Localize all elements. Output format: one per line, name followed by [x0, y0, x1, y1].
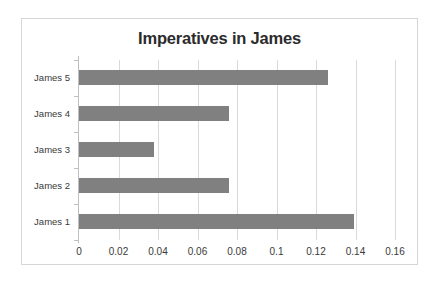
bar [79, 70, 328, 85]
chart-title: Imperatives in James [22, 29, 417, 48]
bar [79, 178, 229, 193]
bar [79, 106, 229, 121]
bar-row: James 4 [79, 96, 395, 132]
category-label: James 3 [34, 142, 70, 157]
bar [79, 214, 354, 229]
x-tick-label: 0.12 [306, 246, 325, 257]
bar [79, 142, 154, 157]
x-tick-label: 0.06 [188, 246, 207, 257]
chart-container: Imperatives in James James 5James 4James… [21, 18, 418, 265]
bar-row: James 1 [79, 204, 395, 240]
x-tick-label: 0.04 [148, 246, 167, 257]
gridline [395, 60, 396, 240]
x-tick-label: 0.14 [346, 246, 365, 257]
plot-area: James 5James 4James 3James 2James 1 00.0… [79, 60, 395, 240]
bar-row: James 2 [79, 168, 395, 204]
x-tick-label: 0.1 [270, 246, 284, 257]
category-label: James 4 [34, 106, 70, 121]
x-tick-label: 0.16 [385, 246, 404, 257]
category-label: James 2 [34, 178, 70, 193]
category-label: James 1 [34, 214, 70, 229]
x-tick-label: 0.02 [109, 246, 128, 257]
x-tick-label: 0.08 [227, 246, 246, 257]
bar-row: James 3 [79, 132, 395, 168]
bar-row: James 5 [79, 60, 395, 96]
category-label: James 5 [34, 70, 70, 85]
x-tick-label: 0 [76, 246, 82, 257]
